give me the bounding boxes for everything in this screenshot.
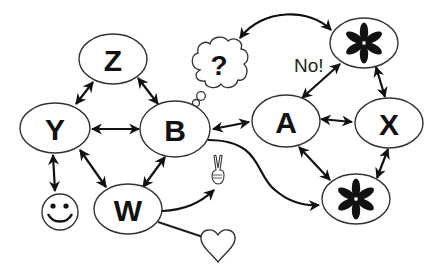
edge-b-a bbox=[213, 122, 249, 129]
edge-w-victory bbox=[162, 190, 214, 211]
edge-y-smiley bbox=[53, 155, 55, 191]
edge-a-star-bottom bbox=[299, 147, 330, 180]
edge-b-w bbox=[143, 157, 165, 187]
node-w-label: W bbox=[114, 194, 143, 227]
victory-hand-icon[interactable] bbox=[212, 155, 224, 184]
node-y[interactable]: Y bbox=[20, 103, 90, 153]
edge-z-y bbox=[76, 82, 93, 104]
diagram-canvas: ? Z Y B W A X bbox=[0, 0, 446, 271]
node-asterisk-top[interactable] bbox=[330, 18, 398, 68]
node-a[interactable]: A bbox=[252, 95, 320, 147]
edge-x-star-bottom bbox=[377, 149, 388, 178]
edge-w-heart bbox=[158, 222, 203, 237]
question-mark-label: ? bbox=[210, 50, 227, 81]
node-asterisk-bottom[interactable] bbox=[322, 174, 390, 224]
heart-icon[interactable] bbox=[201, 230, 235, 262]
node-z-label: Z bbox=[104, 44, 122, 77]
smiley-icon[interactable] bbox=[42, 194, 78, 230]
edge-a-x bbox=[321, 119, 352, 122]
thought-bubble[interactable]: ? bbox=[189, 37, 248, 112]
edge-thought-star-top bbox=[240, 14, 331, 38]
node-b-label: B bbox=[164, 114, 186, 147]
no-label: No! bbox=[294, 55, 324, 76]
edge-z-b bbox=[138, 78, 158, 104]
node-z[interactable]: Z bbox=[79, 34, 147, 84]
node-x[interactable]: X bbox=[355, 98, 423, 148]
node-x-label: X bbox=[379, 108, 399, 141]
edge-x-star-top bbox=[376, 67, 385, 97]
node-a-label: A bbox=[275, 106, 297, 139]
edge-y-w bbox=[80, 150, 106, 187]
node-b[interactable]: B bbox=[140, 101, 210, 157]
node-y-label: Y bbox=[45, 113, 65, 146]
node-w[interactable]: W bbox=[94, 184, 162, 234]
